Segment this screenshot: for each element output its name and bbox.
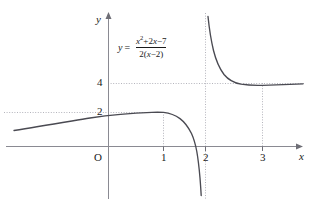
x-tick-label-1: 1 [161, 152, 167, 163]
equation-lhs: y [118, 42, 122, 53]
plot-canvas [0, 0, 314, 204]
equation-denominator: 2(x−2) [136, 47, 166, 59]
curve-left-branch [14, 112, 201, 195]
equation-equals-sign: = [124, 42, 130, 53]
curve-right-branch [208, 17, 303, 86]
origin-label: O [94, 152, 102, 163]
x-tick-label-2: 2 [203, 152, 209, 163]
equation-annotation: y = x2+2x−7 2(x−2) [118, 36, 170, 59]
graph-figure: y x O 1 2 3 2 4 y = x2+2x−7 2(x−2) [0, 0, 314, 204]
y-axis-label: y [96, 14, 101, 25]
x-tick-label-3: 3 [260, 152, 266, 163]
equation-numerator: x2+2x−7 [133, 36, 169, 47]
y-axis-arrow [106, 12, 112, 19]
y-tick-label-4: 4 [97, 77, 103, 88]
x-axis-arrow [296, 144, 303, 150]
x-axis-label: x [299, 151, 304, 162]
equation-fraction: x2+2x−7 2(x−2) [133, 36, 169, 59]
y-tick-label-2: 2 [97, 106, 103, 117]
